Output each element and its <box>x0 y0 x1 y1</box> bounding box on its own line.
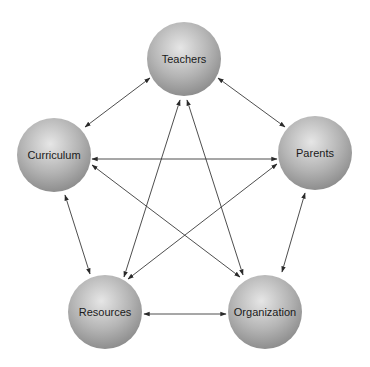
node-resources: Resources <box>68 275 142 349</box>
node-label-resources: Resources <box>79 306 132 318</box>
node-parents: Parents <box>278 116 352 190</box>
arrow-curriculum-organization <box>92 165 240 277</box>
arrow-parents-resources <box>128 164 277 279</box>
relationship-diagram: TeachersCurriculumParentsResourcesOrgani… <box>0 0 370 367</box>
arrow-teachers-organization <box>187 100 243 275</box>
arrow-teachers-resources <box>124 100 180 277</box>
node-organization: Organization <box>228 275 302 349</box>
node-label-teachers: Teachers <box>162 53 207 65</box>
nodes-layer: TeachersCurriculumParentsResourcesOrgani… <box>17 22 352 349</box>
node-teachers: Teachers <box>147 22 221 96</box>
arrow-parents-organization <box>282 193 305 272</box>
node-curriculum: Curriculum <box>17 118 91 192</box>
node-label-parents: Parents <box>296 147 334 159</box>
node-label-curriculum: Curriculum <box>27 149 80 161</box>
arrow-curriculum-teachers <box>85 78 150 127</box>
arrow-teachers-parents <box>218 78 285 127</box>
node-label-organization: Organization <box>234 306 296 318</box>
arrow-curriculum-resources <box>65 195 90 274</box>
